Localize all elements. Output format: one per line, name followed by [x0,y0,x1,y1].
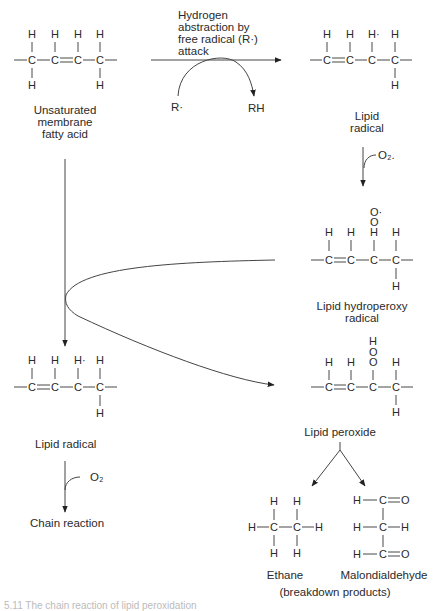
svg-text:C: C [323,54,331,66]
curved-arrow-r-to-rh [178,58,254,96]
lipid-radical-top-structure: H H H· H C C C C H [310,28,412,91]
figure-caption: 5.11 The chain reaction of lipid peroxid… [4,600,197,611]
atom-c: C [28,54,36,66]
atom-h: H [96,79,104,91]
malondialdehyde-structure: H C O H C H H C O [353,494,410,560]
svg-text:attack: attack [178,45,209,57]
svg-text:H: H [346,28,354,40]
svg-text:C: C [51,381,59,393]
svg-text:abstraction by: abstraction by [178,21,250,33]
svg-text:H: H [51,354,59,366]
svg-text:H: H [391,28,399,40]
svg-text:Unsaturated: Unsaturated [34,104,97,116]
svg-text:H: H [270,547,278,559]
svg-text:H: H [315,521,323,533]
atom-h: H [28,79,36,91]
svg-text:O: O [401,494,410,506]
svg-text:C: C [325,254,333,266]
svg-text:C: C [392,381,400,393]
svg-text:Lipid: Lipid [355,110,379,122]
breakdown-fork-arrows [312,442,365,486]
svg-text:H: H [96,407,104,419]
reactant-r-radical: R· [171,101,183,113]
svg-text:H: H [293,495,301,507]
svg-text:H: H [270,495,278,507]
lipid-peroxide-label: Lipid peroxide [304,426,376,438]
svg-text:C: C [325,381,333,393]
svg-text:H: H [325,226,333,238]
svg-text:C: C [370,254,378,266]
svg-text:C: C [369,381,377,393]
breakdown-products-label: (breakdown products) [279,586,390,598]
svg-text:membrane: membrane [38,116,93,128]
svg-text:H: H [325,356,333,368]
lipid-hydroperoxy-radical-structure: O· O H H H H C C C C H [311,206,413,292]
svg-text:C: C [347,254,355,266]
o2-label-right: O₂. [378,149,395,161]
svg-text:C: C [368,54,376,66]
svg-text:H: H [370,226,378,238]
svg-text:C: C [347,381,355,393]
atom-h: H [51,28,59,40]
svg-text:C: C [293,521,301,533]
lipid-peroxide-structure: H O H H O H C C C C H [311,335,413,418]
atom-h: H [28,28,36,40]
svg-text:H: H [353,548,361,560]
svg-text:H: H [323,28,331,40]
svg-text:H: H [392,356,400,368]
ethane-label: Ethane [267,569,303,581]
svg-text:H: H [293,547,301,559]
atom-h: H [74,28,82,40]
svg-text:C: C [28,381,36,393]
svg-text:C: C [379,548,387,560]
lipid-hydroperoxy-radical-label: Lipid hydroperoxy radical [317,300,408,324]
svg-text:H: H [248,521,256,533]
atom-c: C [51,54,59,66]
propagation-curve-arrow [66,260,276,385]
lipid-radical-left-structure: H H H· H C C C C H [14,354,117,419]
malondialdehyde-label: Malondialdehyde [341,569,428,581]
svg-text:H: H [353,494,361,506]
lipid-radical-top-label: Lipid radical [350,110,384,134]
atom-h: H [96,28,104,40]
svg-text:H: H [401,521,409,533]
atom-c: C [96,54,104,66]
svg-text:C: C [346,54,354,66]
svg-text:C: C [391,54,399,66]
svg-text:C: C [379,521,387,533]
svg-text:H: H [347,226,355,238]
lipid-radical-left-label: Lipid radical [35,438,96,450]
svg-text:H·: H· [368,28,380,40]
svg-text:fatty acid: fatty acid [42,128,88,140]
svg-text:C: C [74,381,82,393]
chain-reaction-label: Chain reaction [30,517,104,529]
svg-text:Hydrogen: Hydrogen [178,9,228,21]
o2-curve-right [364,155,376,168]
svg-text:radical: radical [350,122,384,134]
svg-text:free radical (R·): free radical (R·) [178,33,258,45]
svg-text:H: H [392,280,400,292]
o2-label-left: O₂ [90,471,103,483]
svg-text:C: C [96,381,104,393]
unsaturated-fatty-acid-structure: H H H H C C C C H H [14,28,117,91]
o2-curve-left [65,477,80,490]
svg-text:C: C [270,521,278,533]
hydrogen-abstraction-label: Hydrogen abstraction by free radical (R·… [178,9,258,57]
svg-text:O: O [401,548,410,560]
svg-text:H: H [392,406,400,418]
svg-text:H: H [391,79,399,91]
svg-text:radical: radical [345,312,379,324]
svg-text:C: C [379,494,387,506]
svg-text:H: H [347,356,355,368]
svg-text:O: O [369,356,378,368]
product-rh: RH [248,102,265,114]
svg-text:C: C [392,254,400,266]
svg-text:H: H [96,354,104,366]
unsaturated-fatty-acid-label: Unsaturated membrane fatty acid [34,104,97,140]
svg-text:H: H [28,354,36,366]
svg-text:H: H [353,521,361,533]
atom-c: C [74,54,82,66]
svg-text:Lipid hydroperoxy: Lipid hydroperoxy [317,300,408,312]
svg-text:H: H [392,226,400,238]
